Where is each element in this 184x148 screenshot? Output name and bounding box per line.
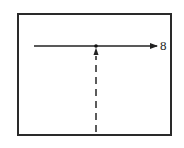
diagram-canvas [0, 0, 184, 148]
vertical-arrowhead-icon [94, 48, 99, 56]
arrow-label-8: 8 [160, 38, 167, 54]
junction-point [94, 44, 98, 48]
